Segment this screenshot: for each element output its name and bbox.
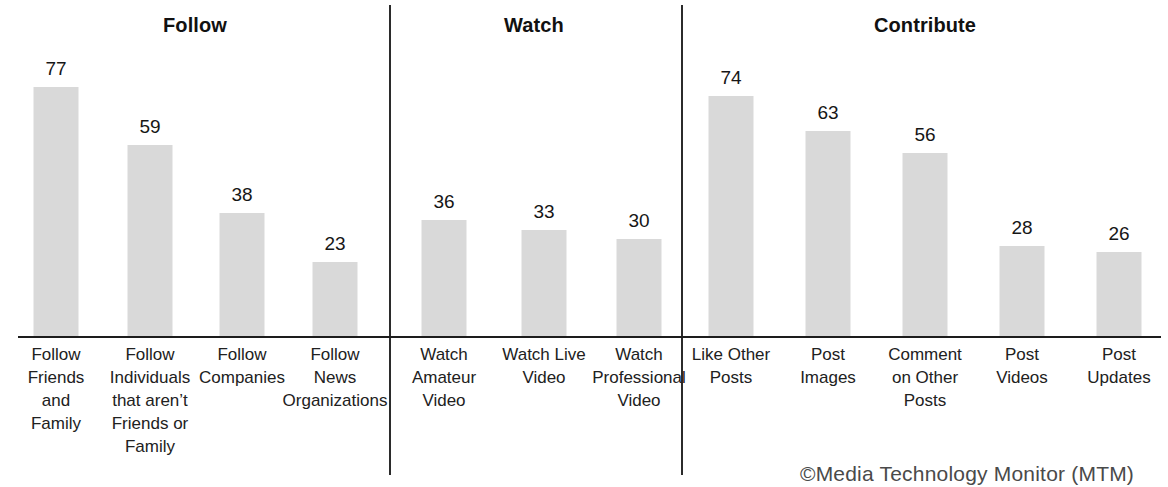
bar-chart: Follow Watch Contribute 77 Follow Friend…: [0, 0, 1168, 487]
bar-value: 63: [817, 102, 838, 124]
bar-label: Follow News Organizations: [280, 343, 390, 412]
bar-label: Watch Amateur Video: [396, 343, 492, 412]
bar-rect: [313, 262, 358, 336]
bar-rect: [709, 96, 754, 336]
bar-rect: [34, 87, 79, 336]
plot-area: 77 Follow Friends and Family 59 Follow I…: [0, 0, 1168, 487]
bar-item-post-videos[interactable]: 28 Post Videos: [999, 0, 1045, 487]
bar-item-watch-professional-video[interactable]: 30 Watch Professional Video: [616, 0, 662, 487]
bar-rect: [617, 239, 662, 336]
source-attribution: ©Media Technology Monitor (MTM): [800, 462, 1134, 486]
bar-item-follow-friends-and-family[interactable]: 77 Follow Friends and Family: [33, 0, 79, 487]
bar-rect: [1000, 246, 1045, 336]
axis-baseline: [18, 336, 1161, 338]
bar-value: 74: [720, 67, 741, 89]
bar-value: 26: [1108, 223, 1129, 245]
bar-label: Post Videos: [974, 343, 1070, 389]
bar-value: 36: [433, 191, 454, 213]
bar-rect: [422, 220, 467, 336]
bar-label: Follow Friends and Family: [8, 343, 104, 435]
bar-label: Watch Live Video: [492, 343, 596, 389]
bar-item-comment-on-other-posts[interactable]: 56 Comment on Other Posts: [902, 0, 948, 487]
bar-value: 28: [1011, 217, 1032, 239]
bar-item-follow-companies[interactable]: 38 Follow Companies: [219, 0, 265, 487]
bar-label: Follow Individuals that aren’t Friends o…: [98, 343, 202, 458]
bar-item-watch-live-video[interactable]: 33 Watch Live Video: [521, 0, 567, 487]
bar-label: Watch Professional Video: [585, 343, 693, 412]
bar-value: 30: [628, 210, 649, 232]
bar-label: Like Other Posts: [679, 343, 783, 389]
bar-label: Comment on Other Posts: [870, 343, 980, 412]
bar-item-watch-amateur-video[interactable]: 36 Watch Amateur Video: [421, 0, 467, 487]
bar-rect: [522, 230, 567, 336]
bar-value: 33: [533, 201, 554, 223]
bar-item-like-other-posts[interactable]: 74 Like Other Posts: [708, 0, 754, 487]
bar-item-follow-news-organizations[interactable]: 23 Follow News Organizations: [312, 0, 358, 487]
bar-rect: [128, 145, 173, 336]
bar-value: 59: [139, 116, 160, 138]
bar-value: 38: [231, 184, 252, 206]
bar-rect: [903, 153, 948, 336]
bar-rect: [220, 213, 265, 336]
bar-item-post-updates[interactable]: 26 Post Updates: [1096, 0, 1142, 487]
bar-label: Post Images: [780, 343, 876, 389]
bar-item-post-images[interactable]: 63 Post Images: [805, 0, 851, 487]
bar-rect: [1097, 252, 1142, 336]
bar-item-follow-individuals[interactable]: 59 Follow Individuals that aren’t Friend…: [127, 0, 173, 487]
bar-value: 56: [914, 124, 935, 146]
bar-label: Post Updates: [1069, 343, 1168, 389]
bar-value: 23: [324, 233, 345, 255]
bar-rect: [806, 131, 851, 336]
bar-label: Follow Companies: [192, 343, 292, 389]
bar-value: 77: [45, 58, 66, 80]
